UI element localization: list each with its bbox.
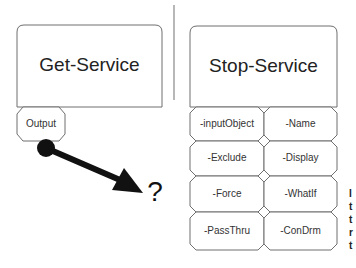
clipped-text-1: I xyxy=(349,188,352,200)
unknown-target-label: ? xyxy=(145,176,165,208)
param-inputobject: -inputObject xyxy=(190,118,264,129)
param-display: -Display xyxy=(264,152,337,163)
param-passthru: -PassThru xyxy=(190,225,264,236)
param-force: -Force xyxy=(190,188,264,199)
output-tab-label: Output xyxy=(17,118,65,129)
param-condrm: -ConDrm xyxy=(264,225,337,236)
stop-service-title: Stop-Service xyxy=(190,55,337,77)
param-name: -Name xyxy=(264,118,337,129)
connector-line xyxy=(46,148,120,180)
clipped-text-5: t xyxy=(349,240,352,252)
get-service-title: Get-Service xyxy=(17,54,162,76)
output-ball-icon xyxy=(37,139,55,157)
clipped-text-4: r xyxy=(349,227,353,239)
clipped-text-2: t xyxy=(349,201,352,213)
param-exclude: -Exclude xyxy=(190,152,264,163)
clipped-text-3: t xyxy=(349,214,352,226)
param-whatif: -WhatIf xyxy=(264,188,337,199)
